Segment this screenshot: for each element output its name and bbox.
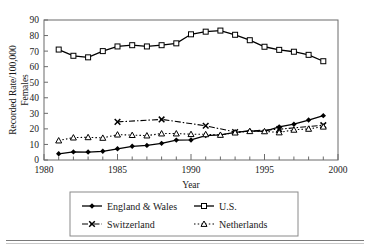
marker-open-square	[247, 38, 252, 43]
marker-open-square	[56, 47, 61, 52]
marker-open-square	[202, 204, 207, 209]
y-tick-label: 20	[30, 124, 40, 134]
legend-item-netherlands[interactable]: Netherlands	[194, 219, 267, 230]
line-chart: 010203040506070809019801985199019952000Y…	[0, 0, 370, 250]
x-tick-label: 1995	[255, 165, 274, 175]
legend-label: Switzerland	[107, 219, 155, 230]
series-u-s	[56, 28, 326, 64]
marker-open-triangle	[56, 138, 62, 143]
x-tick-label: 1990	[182, 165, 201, 175]
marker-filled-diamond	[85, 149, 90, 154]
footer-divider-top	[6, 240, 364, 241]
marker-filled-diamond	[188, 137, 193, 142]
marker-open-triangle	[70, 135, 76, 140]
marker-open-square	[189, 32, 194, 37]
marker-filled-diamond	[89, 203, 94, 208]
footer-divider-bottom	[6, 243, 364, 244]
marker-cross-x	[203, 123, 209, 129]
marker-open-triangle	[85, 134, 91, 139]
y-tick-label: 0	[34, 155, 39, 165]
x-tick-label: 2000	[329, 165, 348, 175]
marker-open-square	[86, 55, 91, 60]
marker-open-square	[115, 44, 120, 49]
marker-filled-diamond	[321, 113, 326, 118]
y-tick-label: 90	[30, 15, 40, 25]
marker-open-square	[159, 43, 164, 48]
marker-open-triangle	[188, 131, 194, 136]
x-tick-label: 1985	[108, 165, 127, 175]
marker-open-triangle	[173, 131, 179, 136]
y-tick-label: 50	[30, 78, 40, 88]
y-axis-title-line2: Females	[20, 74, 30, 106]
marker-open-square	[233, 32, 238, 37]
x-axis-title: Year	[182, 180, 200, 190]
marker-open-triangle	[159, 131, 165, 136]
legend-label: Netherlands	[219, 219, 267, 230]
legend-label: England & Wales	[107, 201, 177, 212]
marker-open-square	[130, 43, 135, 48]
marker-open-square	[203, 29, 208, 34]
marker-open-square	[262, 44, 267, 49]
x-tick-label: 1980	[35, 165, 54, 175]
y-axis-title-line1: Recorded Rate/100,000	[8, 45, 18, 135]
legend-item-switzerland[interactable]: Switzerland	[82, 219, 155, 230]
marker-filled-diamond	[56, 151, 61, 156]
marker-open-square	[277, 47, 282, 52]
marker-open-square	[100, 49, 105, 54]
marker-filled-diamond	[71, 149, 76, 154]
marker-filled-diamond	[174, 137, 179, 142]
y-tick-label: 30	[30, 109, 40, 119]
chart-figure: 010203040506070809019801985199019952000Y…	[0, 0, 370, 250]
marker-open-square	[291, 49, 296, 54]
marker-open-triangle	[100, 135, 106, 140]
legend-item-u-s[interactable]: U.S.	[194, 201, 237, 212]
marker-filled-diamond	[159, 141, 164, 146]
marker-open-square	[174, 41, 179, 46]
marker-open-square	[144, 44, 149, 49]
y-tick-label: 10	[30, 140, 40, 150]
y-tick-label: 70	[30, 47, 40, 57]
marker-filled-diamond	[100, 149, 105, 154]
marker-open-square	[321, 59, 326, 64]
legend-label: U.S.	[219, 201, 237, 212]
marker-open-triangle	[144, 133, 150, 138]
marker-open-square	[218, 28, 223, 33]
y-tick-label: 60	[30, 62, 40, 72]
y-tick-label: 80	[30, 31, 40, 41]
marker-open-triangle	[129, 132, 135, 137]
legend-item-england-wales[interactable]: England & Wales	[82, 201, 177, 212]
marker-open-square	[306, 52, 311, 57]
marker-filled-diamond	[115, 146, 120, 151]
marker-filled-diamond	[130, 144, 135, 149]
marker-open-square	[71, 53, 76, 58]
marker-open-triangle	[115, 132, 121, 137]
y-tick-label: 40	[30, 93, 40, 103]
marker-filled-diamond	[144, 143, 149, 148]
marker-filled-diamond	[306, 117, 311, 122]
